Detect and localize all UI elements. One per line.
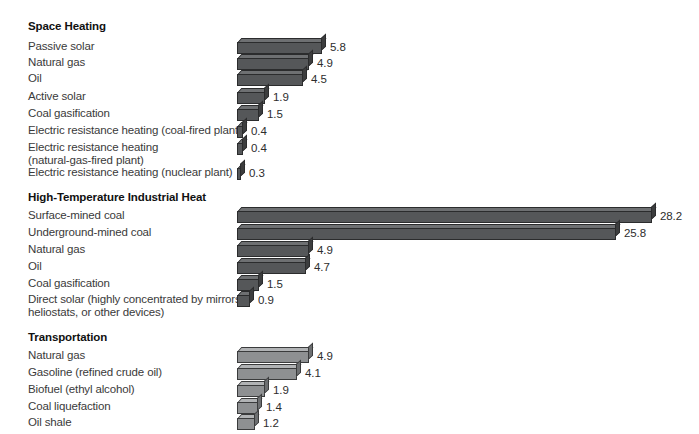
bar-3d — [233, 207, 652, 225]
bar-3d — [233, 139, 243, 157]
bar-label: Passive solar — [28, 40, 94, 53]
bar-value-label: 4.7 — [314, 261, 330, 273]
bar-3d — [233, 224, 616, 242]
bar-3d — [233, 414, 255, 432]
bar-side-face — [240, 159, 245, 177]
bar-row: Natural gas4.9 — [0, 347, 699, 365]
bar-side-face — [308, 342, 313, 360]
bar-front-face — [237, 211, 652, 223]
bar-chart: Space HeatingPassive solar5.8Natural gas… — [0, 0, 699, 434]
bar-label: Oil — [28, 72, 42, 85]
bar-side-face — [321, 33, 326, 51]
bar-side-face — [264, 83, 269, 101]
bar-label-line1: Electric resistance heating (nuclear pla… — [28, 166, 233, 178]
bar-value-label: 0.3 — [249, 167, 265, 179]
bar-front-face — [237, 228, 616, 240]
bar-label-line1: Active solar — [28, 90, 86, 102]
bar-side-face — [249, 286, 254, 304]
bar-row: Gasoline (refined crude oil)4.1 — [0, 364, 699, 382]
bar-side-face — [258, 100, 263, 118]
bar-value-label: 5.8 — [330, 41, 346, 53]
bar-label-line1: Surface-mined coal — [28, 209, 124, 221]
bar-side-face — [296, 359, 301, 377]
bar-front-face — [237, 109, 259, 121]
bar-label-line1: Electric resistance heating (coal-fired … — [28, 124, 242, 136]
bar-front-face — [237, 245, 309, 257]
bar-side-face — [308, 49, 313, 67]
bar-label: Active solar — [28, 90, 86, 103]
bar-label: Natural gas — [28, 349, 85, 362]
bar-3d — [233, 164, 241, 182]
bar-value-label: 1.4 — [266, 401, 282, 413]
bar-label-line1: Natural gas — [28, 349, 85, 361]
bar-front-face — [237, 58, 309, 70]
bar-row: Surface-mined coal28.2 — [0, 207, 699, 225]
bar-label-line1: Coal gasification — [28, 107, 110, 119]
bar-label-line1: Coal gasification — [28, 277, 110, 289]
bar-value-label: 0.4 — [251, 142, 267, 154]
bar-value-label: 0.9 — [258, 294, 274, 306]
bar-label: Electric resistance heating (nuclear pla… — [28, 166, 233, 179]
bar-3d — [233, 241, 309, 259]
bar-side-face — [264, 376, 269, 394]
bar-label: Coal gasification — [28, 277, 110, 290]
bar-label-line1: Coal liquefaction — [28, 400, 110, 412]
bar-side-face — [254, 409, 259, 427]
bar-label: Oil shale — [28, 416, 71, 429]
bar-label: Natural gas — [28, 56, 85, 69]
bar-value-label: 1.2 — [263, 417, 279, 429]
bar-label: Coal gasification — [28, 107, 110, 120]
bar-side-face — [302, 65, 307, 83]
bar-label: Surface-mined coal — [28, 209, 124, 222]
bar-row: Active solar1.9 — [0, 88, 699, 106]
bar-value-label: 4.1 — [305, 367, 321, 379]
bar-label-line1: Biofuel (ethyl alcohol) — [28, 383, 135, 395]
bar-label: Direct solar (highly concentrated by mir… — [28, 293, 244, 319]
bar-value-label: 0.4 — [251, 125, 267, 137]
bar-value-label: 28.2 — [660, 210, 682, 222]
bar-front-face — [237, 418, 255, 430]
bar-label-line1: Oil shale — [28, 416, 71, 428]
bar-label: Underground-mined coal — [28, 226, 151, 239]
bar-row: Oil shale1.2 — [0, 414, 699, 432]
bar-value-label: 25.8 — [624, 227, 646, 239]
bar-label: Coal liquefaction — [28, 400, 110, 413]
bar-3d — [233, 291, 250, 309]
bar-row: Oil4.5 — [0, 70, 699, 88]
bar-row: Electric resistance heating (nuclear pla… — [0, 164, 699, 182]
bar-label-line2: heliostats, or other devices) — [28, 306, 244, 319]
bar-front-face — [237, 279, 259, 291]
bar-label: Electric resistance heating (coal-fired … — [28, 124, 242, 137]
bar-3d — [233, 122, 243, 140]
bar-row: Biofuel (ethyl alcohol)1.9 — [0, 381, 699, 399]
bar-row: Oil4.7 — [0, 258, 699, 276]
bar-value-label: 1.5 — [267, 278, 283, 290]
bar-side-face — [308, 236, 313, 254]
bar-label-line1: Natural gas — [28, 56, 85, 68]
bar-side-face — [242, 134, 247, 152]
bar-row: Direct solar (highly concentrated by mir… — [0, 291, 699, 309]
bar-side-face — [305, 253, 310, 271]
bar-value-label: 1.9 — [273, 384, 289, 396]
bar-label-line1: Electric resistance heating — [28, 141, 158, 153]
bar-label-line1: Natural gas — [28, 243, 85, 255]
bar-label-line1: Gasoline (refined crude oil) — [28, 366, 162, 378]
bar-3d — [233, 258, 306, 276]
bar-label-line1: Underground-mined coal — [28, 226, 151, 238]
bar-label: Oil — [28, 260, 42, 273]
bar-label-line1: Passive solar — [28, 40, 94, 52]
bar-row: Underground-mined coal25.8 — [0, 224, 699, 242]
bar-side-face — [615, 219, 620, 237]
bar-value-label: 4.9 — [317, 57, 333, 69]
section-title: Space Heating — [28, 20, 106, 32]
bar-row: Natural gas4.9 — [0, 241, 699, 259]
bar-row: Electric resistance heating (coal-fired … — [0, 122, 699, 140]
section-title: Transportation — [28, 331, 107, 343]
bar-row: Electric resistance heating(natural-gas-… — [0, 139, 699, 157]
bar-row: Coal gasification1.5 — [0, 105, 699, 123]
bar-label: Biofuel (ethyl alcohol) — [28, 383, 135, 396]
bar-side-face — [242, 117, 247, 135]
bar-side-face — [257, 393, 262, 411]
bar-label-line1: Oil — [28, 72, 42, 84]
bar-label-line1: Direct solar (highly concentrated by mir… — [28, 293, 244, 305]
